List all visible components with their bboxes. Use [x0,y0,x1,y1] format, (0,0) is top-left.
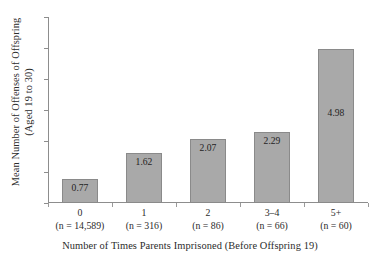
bar-value-label: 2.07 [191,143,225,153]
y-axis-title: Mean Number of Offenses of Offspring (Ag… [0,0,44,204]
x-axis-category: 2 [176,206,240,219]
x-axis-tick-label: 2(n = 86) [176,206,240,232]
x-axis-category: 0 [48,206,112,219]
bar: 1.62 [126,153,162,203]
x-axis-tick-label: 1(n = 316) [112,206,176,232]
bar-series: 0.771.622.072.294.98 [48,17,368,203]
bar: 4.98 [318,49,354,203]
x-axis-tick [368,203,369,207]
x-axis-tick-label: 3–4(n = 66) [240,206,304,232]
x-axis-category: 3–4 [240,206,304,219]
x-axis-sample-size: (n = 66) [240,219,304,232]
bar-value-label: 0.77 [63,183,97,193]
bar: 0.77 [62,179,98,203]
bar-value-label: 2.29 [255,136,289,146]
plot-area: 0.771.622.072.294.98 [48,17,368,203]
x-axis-title: Number of Times Parents Imprisoned (Befo… [0,240,380,251]
x-axis-sample-size: (n = 86) [176,219,240,232]
x-axis-category: 5+ [304,206,368,219]
x-axis-sample-size: (n = 14,589) [48,219,112,232]
x-axis-tick-label: 5+(n = 60) [304,206,368,232]
x-axis-tick-labels: 0(n = 14,589)1(n = 316)2(n = 86)3–4(n = … [48,206,368,236]
bar: 2.29 [254,132,290,203]
x-axis-sample-size: (n = 316) [112,219,176,232]
y-axis-title-line1: Mean Number of Offenses of Offspring [9,18,23,187]
x-axis-sample-size: (n = 60) [304,219,368,232]
x-axis-category: 1 [112,206,176,219]
y-axis-title-line2: (Aged 19 to 30) [22,18,36,187]
x-axis-tick-label: 0(n = 14,589) [48,206,112,232]
bar-chart: Mean Number of Offenses of Offspring (Ag… [0,0,380,262]
bar-value-label: 4.98 [319,108,353,118]
bar-value-label: 1.62 [127,157,161,167]
bar: 2.07 [190,139,226,203]
